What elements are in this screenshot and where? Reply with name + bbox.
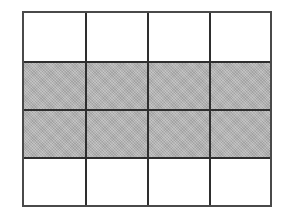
grid-cell-r4-c4 bbox=[211, 159, 270, 205]
grid-cell-r2-c3 bbox=[149, 63, 211, 111]
grid-cell-r4-c1 bbox=[24, 159, 87, 205]
grid-cell-r3-c3 bbox=[149, 111, 211, 159]
grid-cell-r4-c3 bbox=[149, 159, 211, 205]
grid-diagram bbox=[22, 11, 272, 207]
grid-cell-r3-c1 bbox=[24, 111, 87, 159]
grid-cell-r1-c2 bbox=[87, 13, 149, 63]
grid-cell-r1-c4 bbox=[211, 13, 270, 63]
grid-cell-r2-c4 bbox=[211, 63, 270, 111]
grid-cell-r2-c1 bbox=[24, 63, 87, 111]
grid-cell-r3-c4 bbox=[211, 111, 270, 159]
grid-cell-r3-c2 bbox=[87, 111, 149, 159]
grid-cell-r4-c2 bbox=[87, 159, 149, 205]
grid-cell-r1-c1 bbox=[24, 13, 87, 63]
grid-cell-r2-c2 bbox=[87, 63, 149, 111]
grid-cell-r1-c3 bbox=[149, 13, 211, 63]
